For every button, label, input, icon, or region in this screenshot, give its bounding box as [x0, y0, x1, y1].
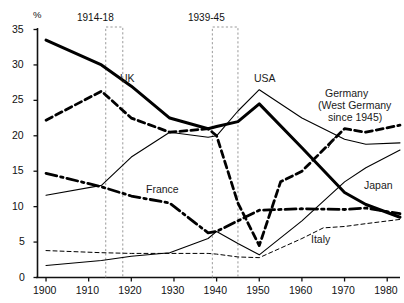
x-tick-label: 1980 [374, 284, 397, 296]
x-tick-label: 1900 [33, 284, 56, 296]
plot-axes [34, 28, 401, 282]
series-line-italy [46, 219, 400, 257]
x-tick-label: 1910 [76, 284, 99, 296]
series-line-france [46, 173, 400, 233]
y-axis-unit-label: % [33, 9, 41, 20]
series-line-japan [46, 150, 400, 265]
line-chart-plot [0, 0, 404, 303]
x-tick-label: 1940 [204, 284, 227, 296]
y-tick-label: 10 [12, 200, 24, 212]
y-tick-label: 25 [12, 93, 24, 105]
series-label-germany-line2: (West Germany [318, 100, 391, 112]
series-label-germany-line3: since 1945) [328, 112, 382, 124]
war-band-shapes [106, 27, 238, 278]
data-series-layer [46, 40, 400, 265]
x-tick-label: 1970 [332, 284, 355, 296]
x-tick-label: 1920 [118, 284, 141, 296]
y-tick-label: 20 [12, 129, 24, 141]
y-tick-label: 30 [12, 58, 24, 70]
series-label-usa: USA [254, 73, 276, 85]
x-tick-label: 1950 [246, 284, 269, 296]
series-label-uk: UK [120, 73, 135, 85]
x-tick-label: 1930 [161, 284, 184, 296]
chart-container: % 05101520253035 19001910192019301940195… [0, 0, 404, 303]
y-tick-label: 5 [19, 235, 25, 247]
y-tick-label: 15 [12, 164, 24, 176]
series-label-germany-line1: Germany [325, 88, 368, 100]
war-band-label-wwii: 1939-45 [188, 12, 225, 23]
war-band-label-wwi: 1914-18 [77, 12, 114, 23]
series-label-france: France [146, 184, 179, 196]
y-tick-label: 0 [19, 271, 25, 283]
series-label-japan: Japan [364, 180, 393, 192]
series-label-italy: Italy [311, 234, 330, 246]
x-tick-label: 1960 [289, 284, 312, 296]
y-tick-label: 35 [12, 23, 24, 35]
